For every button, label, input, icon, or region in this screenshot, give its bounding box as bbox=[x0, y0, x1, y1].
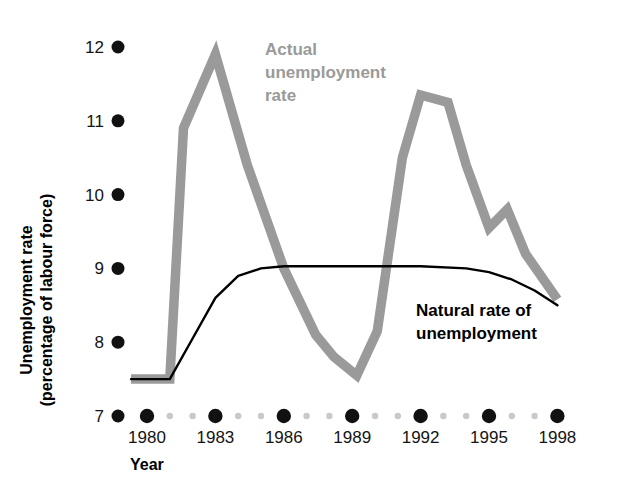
chart-canvas: 789101112 1980198319861989199219951998 A… bbox=[0, 0, 631, 489]
unemployment-chart: 789101112 1980198319861989199219951998 A… bbox=[0, 0, 631, 489]
y-tick-label: 12 bbox=[85, 38, 104, 57]
x-minor-tick-dot bbox=[235, 413, 241, 419]
y-tick-dot bbox=[112, 41, 125, 54]
x-minor-tick-dot bbox=[440, 413, 446, 419]
actual-label: Actual bbox=[265, 40, 317, 59]
x-minor-tick-dot bbox=[167, 413, 173, 419]
x-tick-dot bbox=[140, 409, 154, 423]
x-minor-tick-dot bbox=[189, 413, 195, 419]
x-tick-label: 1998 bbox=[538, 428, 576, 447]
y-tick-label: 11 bbox=[86, 112, 104, 131]
y-tick-dot bbox=[112, 114, 125, 127]
y-tick-label: 8 bbox=[95, 333, 104, 352]
x-minor-tick-dot bbox=[303, 413, 309, 419]
x-axis-title: Year bbox=[130, 456, 164, 473]
x-minor-tick-dot bbox=[509, 413, 515, 419]
y-tick-label: 9 bbox=[95, 259, 104, 278]
x-tick-dot bbox=[482, 409, 496, 423]
x-tick-label: 1992 bbox=[402, 428, 440, 447]
x-minor-tick-dot bbox=[258, 413, 264, 419]
x-tick-label: 1989 bbox=[333, 428, 371, 447]
x-minor-tick-dot bbox=[395, 413, 401, 419]
x-minor-tick-dot bbox=[463, 413, 469, 419]
natural-label: unemployment bbox=[416, 324, 537, 343]
x-minor-tick-dot bbox=[372, 413, 378, 419]
x-tick-dot bbox=[345, 409, 359, 423]
y-tick-label: 7 bbox=[95, 407, 104, 426]
x-tick-dot bbox=[277, 409, 291, 423]
y-tick-label: 10 bbox=[85, 186, 104, 205]
natural-label: Natural rate of bbox=[416, 301, 532, 320]
x-tick-label: 1980 bbox=[128, 428, 166, 447]
y-axis-title-line2: (percentage of labour force) bbox=[38, 194, 55, 406]
actual-label: unemployment bbox=[265, 63, 386, 82]
x-minor-tick-dot bbox=[531, 413, 537, 419]
x-tick-dot bbox=[208, 409, 222, 423]
y-tick-dot bbox=[112, 410, 125, 423]
y-tick-dot bbox=[112, 188, 125, 201]
x-tick-label: 1986 bbox=[265, 428, 303, 447]
x-tick-dot bbox=[550, 409, 564, 423]
x-tick-label: 1995 bbox=[470, 428, 508, 447]
y-axis-title-line1: Unemployment rate bbox=[18, 225, 35, 374]
x-tick-label: 1983 bbox=[196, 428, 234, 447]
x-tick-dot bbox=[413, 409, 427, 423]
x-minor-tick-dot bbox=[326, 413, 332, 419]
y-tick-dot bbox=[112, 262, 125, 275]
y-tick-dot bbox=[112, 336, 125, 349]
actual-label: rate bbox=[265, 86, 296, 105]
